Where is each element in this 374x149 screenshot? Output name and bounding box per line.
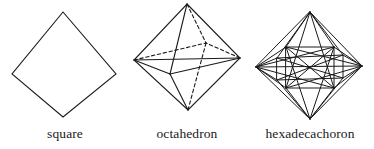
hexadecachoron-outer-hull bbox=[256, 12, 362, 119]
figure-hexadecachoron: hexadecachoron bbox=[246, 0, 374, 149]
square-caption: square bbox=[0, 124, 130, 144]
octahedron-outline bbox=[134, 4, 240, 110]
square-diagram bbox=[0, 0, 130, 124]
figure-square: square bbox=[0, 0, 130, 149]
hexadecachoron-caption: hexadecachoron bbox=[246, 124, 374, 144]
figure-board: square bbox=[0, 0, 374, 149]
octahedron-diagonals bbox=[134, 58, 240, 60]
octahedron-diagram bbox=[124, 0, 250, 124]
octahedron-visible-edges bbox=[134, 4, 240, 110]
octahedron-caption: octahedron bbox=[124, 124, 250, 144]
octahedron-hidden-edges bbox=[134, 4, 240, 110]
figure-octahedron: octahedron bbox=[124, 0, 250, 149]
hexadecachoron-diagram bbox=[246, 0, 374, 124]
square-outline bbox=[12, 12, 116, 117]
